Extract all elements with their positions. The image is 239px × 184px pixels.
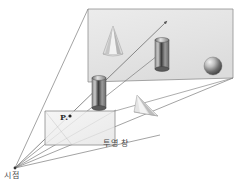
cylinder-far — [155, 38, 169, 72]
point-p-marker — [68, 114, 71, 117]
perspective-projection-diagram — [0, 0, 239, 184]
sphere — [204, 57, 222, 75]
cone-near-projected — [134, 95, 158, 116]
projection-window-label: 투영 창 — [103, 137, 129, 148]
viewpoint-label: 시점 — [4, 169, 19, 180]
cylinder-near — [92, 76, 106, 111]
frustum-edges — [115, 78, 233, 111]
point-p-label: P. — [60, 112, 68, 122]
